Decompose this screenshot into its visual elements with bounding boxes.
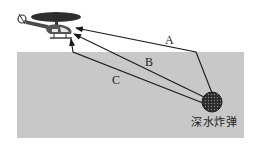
path-b-label: B <box>145 56 153 68</box>
diagram-stage: A B C 深水炸弹 <box>0 0 256 148</box>
path-c-label: C <box>112 74 120 86</box>
path-a-label: A <box>165 34 174 46</box>
helicopter-icon <box>18 12 81 38</box>
depth-charge-label: 深水炸弹 <box>191 117 237 128</box>
depth-charge-icon <box>202 92 222 112</box>
